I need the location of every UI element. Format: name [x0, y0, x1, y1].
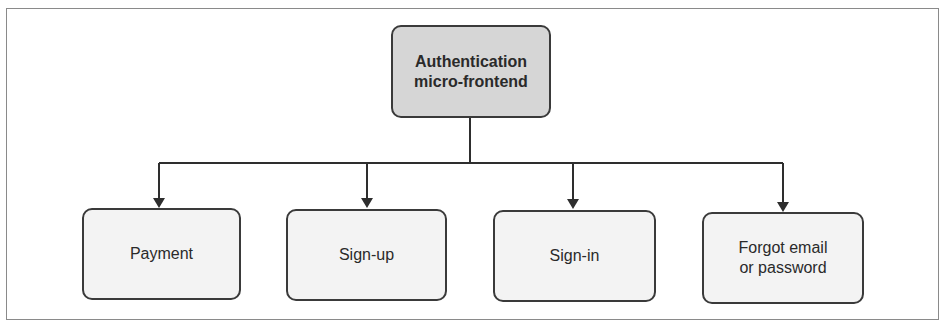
node-label: Sign-up	[339, 245, 394, 265]
arrowhead-icon	[153, 198, 165, 208]
sign-in-node: Sign-in	[493, 210, 656, 302]
sign-up-node: Sign-up	[286, 209, 447, 301]
payment-node: Payment	[82, 208, 241, 300]
node-label: Forgot email or password	[739, 238, 828, 278]
forgot-email-or-password-node: Forgot email or password	[702, 212, 864, 304]
node-label: Sign-in	[550, 246, 600, 266]
arrowhead-icon	[777, 202, 789, 212]
node-label: Payment	[130, 244, 193, 264]
node-label: Authentication micro-frontend	[414, 52, 528, 92]
arrowhead-icon	[567, 199, 579, 209]
authentication-micro-frontend-node: Authentication micro-frontend	[391, 25, 551, 118]
arrowhead-icon	[361, 198, 373, 208]
